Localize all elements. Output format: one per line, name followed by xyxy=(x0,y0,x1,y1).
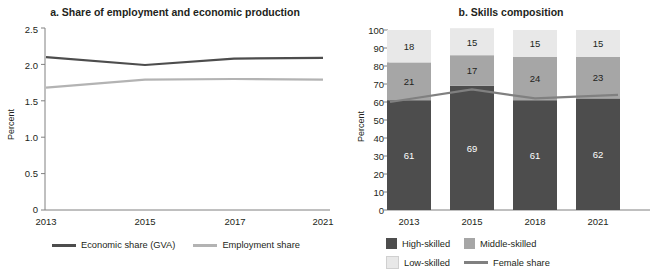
panel-a-series-gva xyxy=(46,57,323,65)
bar-value-low-2021: 15 xyxy=(576,38,620,49)
legend-item-high-skilled: High-skilled xyxy=(386,238,450,249)
panel-b-legend-row-2: Low-skilled Female share xyxy=(386,256,550,269)
bar-value-high-2015: 69 xyxy=(450,143,494,154)
panel-a-plot xyxy=(0,0,350,277)
panel-b: b. Skills composition Percent 100 90 80 … xyxy=(350,0,672,277)
legend-label: Low-skilled xyxy=(404,258,450,268)
legend-swatch-box-icon xyxy=(386,238,397,249)
legend-item-employment-share: Employment share xyxy=(193,240,300,250)
legend-swatch-line-icon xyxy=(193,244,217,247)
bar-value-high-2018: 61 xyxy=(513,150,557,161)
legend-swatch-box-icon xyxy=(464,238,475,249)
bar-value-middle-2013: 21 xyxy=(387,76,431,87)
bar-value-middle-2021: 23 xyxy=(576,72,620,83)
bar-value-high-2013: 61 xyxy=(387,150,431,161)
panel-a-series-employment xyxy=(46,79,323,88)
legend-label: Female share xyxy=(493,258,550,268)
legend-swatch-line-icon xyxy=(52,244,76,247)
legend-item-economic-share: Economic share (GVA) xyxy=(52,240,175,250)
legend-item-middle-skilled: Middle-skilled xyxy=(464,238,536,249)
bar-value-middle-2015: 17 xyxy=(450,65,494,76)
panel-a-legend: Economic share (GVA) Employment share xyxy=(52,240,300,250)
figure-container: a. Share of employment and economic prod… xyxy=(0,0,672,277)
legend-swatch-box-icon xyxy=(386,256,399,269)
panel-a: a. Share of employment and economic prod… xyxy=(0,0,350,277)
bar-value-low-2018: 15 xyxy=(513,38,557,49)
panel-b-legend-row-1: High-skilled Middle-skilled xyxy=(386,238,536,249)
legend-label: High-skilled xyxy=(402,239,450,249)
bar-value-low-2013: 18 xyxy=(387,41,431,52)
legend-swatch-line-icon xyxy=(464,261,488,264)
legend-item-female-share: Female share xyxy=(464,258,550,268)
legend-item-low-skilled: Low-skilled xyxy=(386,256,450,269)
bar-value-high-2021: 62 xyxy=(576,149,620,160)
bar-value-middle-2018: 24 xyxy=(513,73,557,84)
legend-label: Employment share xyxy=(222,240,300,250)
bar-value-low-2015: 15 xyxy=(450,37,494,48)
legend-label: Middle-skilled xyxy=(480,239,536,249)
legend-label: Economic share (GVA) xyxy=(81,240,175,250)
